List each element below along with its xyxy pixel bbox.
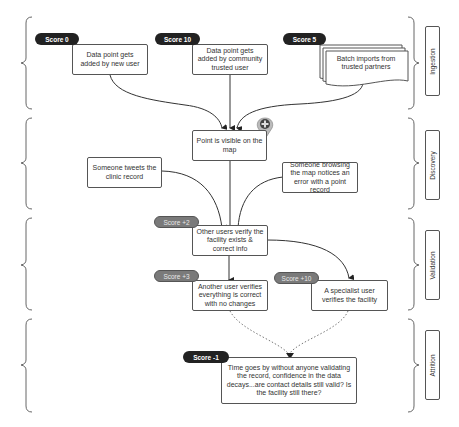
node-tweets: Someone tweets the clinic record bbox=[87, 157, 162, 188]
right-brace-attrition bbox=[408, 319, 419, 412]
left-brace-discovery bbox=[21, 118, 32, 209]
node-batch-imports: Batch imports from trusted partners bbox=[327, 52, 405, 74]
node-time-decay: Time goes by without anyone validating t… bbox=[221, 357, 357, 404]
stage-label-validation-text: Validation bbox=[429, 251, 436, 279]
left-brace-attrition bbox=[21, 319, 32, 412]
left-brace-validation bbox=[21, 218, 32, 310]
right-brace-ingestion bbox=[408, 17, 419, 109]
left-brace-ingestion bbox=[21, 17, 32, 109]
node-browsing-error: Someone browsing the map notices an erro… bbox=[282, 162, 358, 193]
right-brace-validation bbox=[408, 218, 419, 310]
score-badge-community-user: Score 10 bbox=[155, 33, 200, 45]
score-badge-verify-facility: Score +2 bbox=[154, 216, 199, 228]
stage-label-ingestion-text: Ingestion bbox=[429, 48, 436, 74]
stage-label-discovery: Discovery bbox=[425, 130, 440, 200]
node-community-user: Data point gets added by community trust… bbox=[192, 44, 268, 75]
score-badge-batch-imports: Score 5 bbox=[283, 33, 326, 45]
right-brace-discovery bbox=[408, 118, 419, 209]
stage-label-ingestion: Ingestion bbox=[425, 26, 440, 96]
node-another-user: Another user verifies everything is corr… bbox=[192, 280, 268, 311]
score-badge-time-decay: Score -1 bbox=[183, 351, 229, 363]
stage-label-attrition: Attrition bbox=[425, 330, 440, 400]
node-visible-on-map: Point is visible on the map bbox=[192, 130, 267, 161]
score-badge-specialist: Score +10 bbox=[274, 272, 319, 284]
score-badge-another-user: Score +3 bbox=[154, 270, 199, 282]
stage-label-attrition-text: Attrition bbox=[429, 354, 436, 376]
score-badge-new-user: Score 0 bbox=[35, 33, 79, 45]
node-specialist: A specialist user verifies the facility bbox=[311, 280, 388, 311]
node-new-user: Data point gets added by new user bbox=[72, 44, 148, 75]
stage-label-validation: Validation bbox=[425, 230, 440, 300]
stage-label-discovery-text: Discovery bbox=[429, 151, 436, 180]
node-verify-facility: Other users verify the facility exists &… bbox=[192, 225, 268, 256]
